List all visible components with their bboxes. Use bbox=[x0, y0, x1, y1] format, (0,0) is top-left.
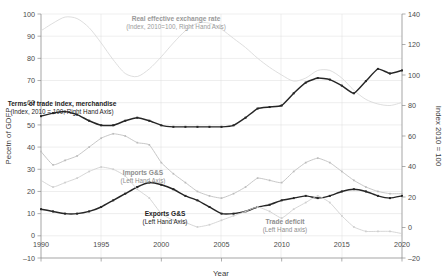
data-point bbox=[317, 197, 319, 199]
y-tick-label-right: –20 bbox=[408, 254, 420, 263]
x-tick-label: 2005 bbox=[214, 240, 230, 249]
y-tick-label-right: 20 bbox=[408, 193, 416, 202]
y-tick-label-right: 0 bbox=[408, 223, 412, 232]
data-point bbox=[269, 180, 271, 182]
data-point bbox=[269, 106, 271, 108]
data-point bbox=[305, 82, 307, 84]
data-point bbox=[329, 195, 331, 197]
data-point bbox=[136, 117, 138, 119]
series-1 bbox=[41, 17, 402, 106]
data-point bbox=[52, 186, 54, 188]
series-line bbox=[41, 17, 402, 106]
x-axis-title: Year bbox=[213, 269, 229, 278]
annotation-sublabel: (Left Hand axis) bbox=[263, 226, 307, 234]
data-point bbox=[221, 219, 223, 221]
y-tick-label-left: 80 bbox=[27, 54, 35, 63]
data-point bbox=[76, 213, 78, 215]
series-annotation-5: Trade deficit(Left Hand axis) bbox=[263, 218, 307, 234]
data-point bbox=[365, 190, 367, 192]
data-point bbox=[257, 108, 259, 110]
data-point bbox=[88, 120, 90, 122]
data-point bbox=[112, 168, 114, 170]
data-point bbox=[40, 151, 42, 153]
data-point bbox=[100, 166, 102, 168]
series-annotation-1: Real effective exchange rate(Index, 2010… bbox=[126, 15, 226, 31]
data-point bbox=[184, 195, 186, 197]
data-point bbox=[124, 120, 126, 122]
data-point bbox=[136, 186, 138, 188]
data-point bbox=[160, 184, 162, 186]
data-point bbox=[305, 195, 307, 197]
x-tick-label: 2000 bbox=[153, 240, 169, 249]
data-point bbox=[88, 171, 90, 173]
data-point bbox=[233, 193, 235, 195]
data-point bbox=[197, 191, 199, 193]
y-tick-label-left: 100 bbox=[23, 10, 35, 19]
x-tick-label: 2015 bbox=[334, 240, 350, 249]
data-point bbox=[208, 126, 210, 128]
y-tick-label-left: 30 bbox=[27, 165, 35, 174]
data-point bbox=[148, 197, 150, 199]
data-point bbox=[148, 144, 150, 146]
data-point bbox=[317, 77, 319, 79]
y-tick-label-left: 90 bbox=[27, 32, 35, 41]
data-point bbox=[209, 224, 211, 226]
data-point bbox=[40, 208, 42, 210]
y-axis-left-ticks: –100102030405060708090100 bbox=[23, 10, 41, 263]
data-point bbox=[64, 213, 66, 215]
data-point bbox=[172, 188, 174, 190]
data-point bbox=[281, 105, 283, 107]
y-tick-label-right: 140 bbox=[408, 10, 420, 19]
data-point bbox=[317, 157, 319, 159]
y-tick-label-left: 70 bbox=[27, 76, 35, 85]
data-point bbox=[136, 142, 138, 144]
data-point bbox=[124, 135, 126, 137]
y-tick-label-right: 60 bbox=[408, 132, 416, 141]
series-layer bbox=[40, 17, 403, 235]
data-point bbox=[173, 173, 175, 175]
data-point bbox=[221, 197, 223, 199]
data-point bbox=[401, 195, 403, 197]
data-point bbox=[353, 188, 355, 190]
data-point bbox=[245, 117, 247, 119]
data-point bbox=[185, 182, 187, 184]
annotation-sublabel: (Index, 2010 = 100, Right Hand Axis) bbox=[10, 108, 113, 116]
x-tick-label: 1990 bbox=[33, 240, 49, 249]
y-tick-label-left: 40 bbox=[27, 143, 35, 152]
chart-svg: –100102030405060708090100 –2002040608010… bbox=[0, 0, 445, 279]
series-3 bbox=[40, 133, 403, 199]
data-point bbox=[160, 162, 162, 164]
data-point bbox=[329, 162, 331, 164]
data-point bbox=[209, 195, 211, 197]
data-point bbox=[245, 186, 247, 188]
data-point bbox=[293, 171, 295, 173]
data-point bbox=[184, 126, 186, 128]
data-point bbox=[221, 213, 223, 215]
data-point bbox=[353, 180, 355, 182]
y-axis-right-title: Index 2010 = 100 bbox=[434, 106, 443, 167]
series-annotation-2: Terms of trade index, merchandise(Index,… bbox=[8, 100, 117, 116]
y-tick-label-right: 120 bbox=[408, 40, 420, 49]
data-point bbox=[269, 211, 271, 213]
data-point bbox=[389, 231, 391, 233]
data-point bbox=[305, 162, 307, 164]
series-line bbox=[41, 167, 402, 234]
series-2 bbox=[40, 68, 403, 128]
data-point bbox=[100, 206, 102, 208]
data-point bbox=[40, 115, 42, 117]
data-point bbox=[377, 68, 379, 70]
data-point bbox=[233, 215, 235, 217]
data-point bbox=[245, 211, 247, 213]
data-point bbox=[353, 226, 355, 228]
data-point bbox=[112, 124, 114, 126]
data-point bbox=[329, 79, 331, 81]
y-tick-label-right: 100 bbox=[408, 71, 420, 80]
y-tick-label-right: 80 bbox=[408, 101, 416, 110]
data-point bbox=[389, 72, 391, 74]
data-point bbox=[88, 146, 90, 148]
data-point bbox=[52, 210, 54, 212]
series-annotation-3: Imports G&S(Left Hand Axis) bbox=[121, 169, 166, 185]
data-point bbox=[40, 180, 42, 182]
data-point bbox=[221, 126, 223, 128]
data-point bbox=[148, 120, 150, 122]
